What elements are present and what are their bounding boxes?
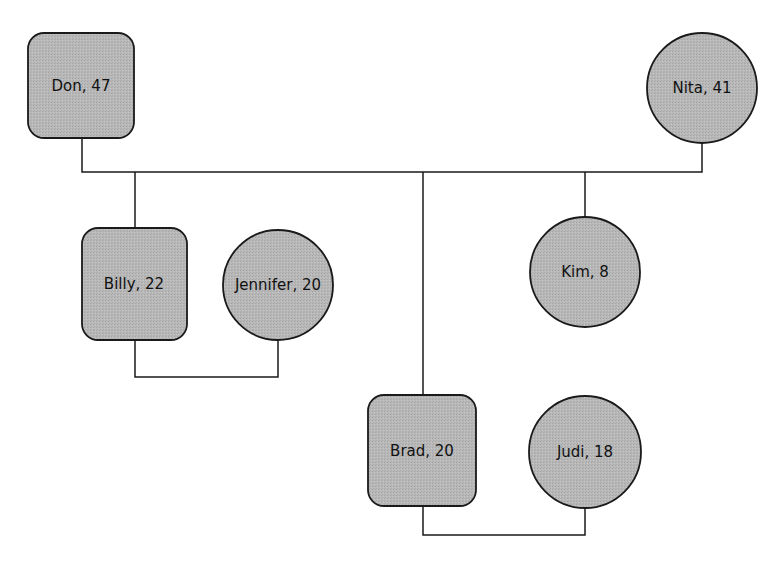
node-label-billy: Billy, 22 [104, 275, 164, 293]
node-nita[interactable]: Nita, 41 [647, 33, 757, 143]
node-label-nita: Nita, 41 [672, 79, 731, 97]
couple-line-billy-jennifer [135, 340, 278, 377]
node-brad[interactable]: Brad, 20 [368, 395, 476, 506]
couple-line-brad-judi [423, 506, 585, 535]
node-don[interactable]: Don, 47 [28, 33, 134, 138]
node-kim[interactable]: Kim, 8 [530, 217, 640, 327]
node-label-don: Don, 47 [52, 77, 111, 95]
node-billy[interactable]: Billy, 22 [82, 228, 187, 340]
marriage-line-don-nita [82, 138, 702, 172]
node-label-jennifer: Jennifer, 20 [234, 276, 321, 294]
node-label-judi: Judi, 18 [556, 443, 613, 461]
node-label-kim: Kim, 8 [561, 263, 609, 281]
node-judi[interactable]: Judi, 18 [529, 396, 641, 508]
node-jennifer[interactable]: Jennifer, 20 [223, 230, 333, 340]
genogram-diagram: Don, 47 Nita, 41 Billy, 22 Jennifer, 20 … [0, 0, 784, 562]
node-label-brad: Brad, 20 [390, 442, 454, 460]
